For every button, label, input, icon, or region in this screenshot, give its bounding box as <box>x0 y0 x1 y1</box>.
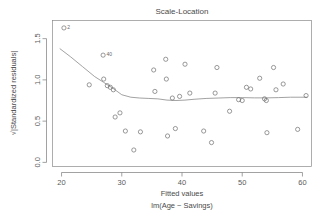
data-point <box>87 83 91 87</box>
x-axis-label: Fitted values <box>161 189 204 198</box>
plot-frame <box>53 21 312 167</box>
data-point <box>153 89 157 93</box>
data-point <box>164 57 168 61</box>
data-point <box>296 127 300 131</box>
y-tick-label: 0.5 <box>34 116 43 126</box>
x-axis: 2030405060 <box>57 173 306 188</box>
x-tick-label: 60 <box>298 178 306 187</box>
data-point <box>177 94 181 98</box>
point-labels-group: 240 <box>62 24 112 57</box>
data-point <box>258 76 262 80</box>
y-axis: 0.00.51.01.5 <box>34 33 47 167</box>
data-point <box>213 91 217 95</box>
data-point <box>188 91 192 95</box>
data-point <box>132 148 136 152</box>
data-point <box>165 134 169 138</box>
y-axis-label: √|Standardized residuals| <box>9 51 18 135</box>
x-tick-label: 20 <box>57 178 65 187</box>
data-point <box>152 68 156 72</box>
x-tick-label: 40 <box>178 178 186 187</box>
x-tick-label: 50 <box>238 178 246 187</box>
data-point <box>164 77 168 81</box>
data-point <box>249 87 253 91</box>
scale-location-plot: Scale-Location 2030405060 0.00.51.01.5 2… <box>0 0 332 218</box>
data-point <box>202 129 206 133</box>
y-tick-label: 0.0 <box>34 157 43 167</box>
loess-smoother-line <box>60 49 308 101</box>
outlier-point <box>62 26 66 30</box>
data-point <box>118 111 122 115</box>
data-point <box>173 126 177 130</box>
data-point <box>244 85 248 89</box>
x-tick-label: 30 <box>118 178 126 187</box>
data-points-group <box>87 53 308 152</box>
chart-title: Scale-Location <box>156 7 209 16</box>
data-point <box>209 140 213 144</box>
data-point <box>102 77 106 81</box>
data-point <box>101 53 105 57</box>
y-tick-label: 1.0 <box>34 75 43 85</box>
data-point <box>265 131 269 135</box>
point-label: 2 <box>67 24 70 30</box>
model-formula-label: lm(Age ~ Savings) <box>151 201 213 210</box>
data-point <box>183 62 187 66</box>
plot-canvas: Scale-Location 2030405060 0.00.51.01.5 2… <box>0 0 332 218</box>
data-point <box>138 130 142 134</box>
data-point <box>170 96 174 100</box>
point-label: 40 <box>107 51 113 57</box>
data-point <box>123 129 127 133</box>
y-tick-label: 1.5 <box>34 33 43 43</box>
data-point <box>271 65 275 69</box>
data-point <box>227 109 231 113</box>
data-point <box>274 88 278 92</box>
data-point <box>113 115 117 119</box>
data-point <box>281 82 285 86</box>
data-point <box>215 65 219 69</box>
